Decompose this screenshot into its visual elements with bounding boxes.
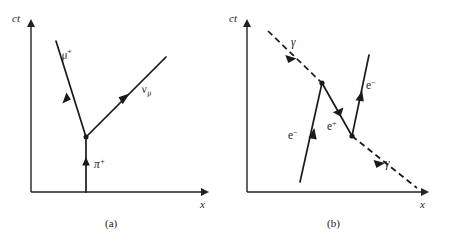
outgoing-photon-label: γ (385, 157, 390, 170)
incoming-photon-direction-arrow (285, 55, 296, 63)
neutrino-label: νμ (141, 82, 152, 98)
positron-direction-arrow (333, 108, 344, 117)
electron-left-label: e− (288, 128, 298, 141)
muon-direction-arrow (62, 93, 71, 104)
muon-label: μ+ (59, 47, 73, 63)
panel-a-x-axis-label: x (199, 198, 205, 210)
panel-a-neutrino-worldline (86, 57, 166, 137)
panel-a-axes: ct x (12, 12, 205, 210)
panel-a-pion-worldline (82, 137, 90, 192)
positron-label: e+ (327, 119, 337, 132)
panel-b-ct-axis-label: ct (229, 12, 238, 24)
incoming-photon-label: γ (291, 36, 296, 49)
panel-a: ct x π+ μ+ νμ (12, 12, 205, 230)
electron-right-direction-arrow (356, 91, 364, 102)
panel-b-x-axis-label: x (419, 198, 425, 210)
pion-direction-arrow (82, 157, 90, 166)
panel-b-axes: ct x (229, 12, 425, 210)
panel-b-electron-left-worldline (300, 83, 322, 182)
panel-a-decay-vertex (84, 135, 89, 140)
panel-a-ct-axis-label: ct (12, 12, 21, 24)
figure-root: ct x π+ μ+ νμ (0, 0, 450, 242)
panel-b-caption: (b) (327, 217, 340, 230)
panel-b-electron-right-worldline (352, 55, 369, 136)
pion-label: π+ (94, 157, 105, 170)
electron-left-direction-arrow (308, 128, 316, 139)
panel-a-caption: (a) (105, 217, 118, 230)
panel-b: ct x (229, 12, 425, 230)
electron-left-line (300, 83, 322, 182)
electron-right-label: e− (366, 78, 376, 91)
spacetime-diagram-figure: ct x π+ μ+ νμ (0, 0, 450, 242)
panel-b-pair-production-vertex (319, 80, 324, 85)
panel-b-pair-annihilation-vertex (349, 133, 354, 138)
